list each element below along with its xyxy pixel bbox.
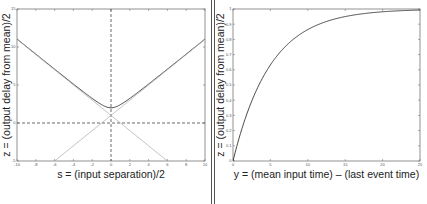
y-axis-title: z = (output delay from mean)/2 (0, 13, 12, 156)
y-tick-label: 0.2 (226, 128, 232, 133)
x-tick-label: 4 (147, 162, 150, 167)
x-tick-label: -6 (53, 162, 57, 167)
y-tick-label: 0.5 (226, 82, 232, 87)
x-tick-label: 2 (129, 162, 132, 167)
panel-divider (211, 0, 212, 204)
left-chart: -10-8-6-4-20246810-5051015s = (input sep… (0, 0, 212, 204)
y-tick-label: 0.7 (226, 52, 232, 57)
right-chart: 051015202500.10.20.30.40.50.60.70.80.91y… (216, 0, 427, 204)
y-tick-label: 0.8 (226, 37, 232, 42)
right-chart-panel: 051015202500.10.20.30.40.50.60.70.80.91y… (216, 0, 427, 204)
y-tick-label: 15 (11, 6, 16, 11)
x-tick-label: 10 (306, 162, 311, 167)
x-axis-title: s = (input separation)/2 (57, 168, 165, 180)
y-tick-label: 0.6 (226, 67, 232, 72)
left-chart-panel: -10-8-6-4-20246810-5051015s = (input sep… (0, 0, 212, 204)
x-tick-label: -4 (72, 162, 76, 167)
x-tick-label: -8 (34, 162, 38, 167)
x-tick-label: 15 (343, 162, 348, 167)
x-tick-label: 5 (269, 162, 272, 167)
x-tick-label: 25 (418, 162, 423, 167)
x-axis-title: y = (mean input time) – (last event time… (234, 168, 419, 180)
y-tick-label: 0.4 (226, 98, 232, 103)
x-tick-label: -2 (90, 162, 94, 167)
y-tick-label: 1 (229, 6, 232, 11)
x-tick-label: 6 (166, 162, 169, 167)
x-tick-label: 0 (110, 162, 113, 167)
x-tick-label: 0 (232, 162, 235, 167)
y-tick-label: 0 (13, 120, 16, 125)
y-tick-label: 0.1 (226, 143, 232, 148)
panel-divider-inner (214, 0, 215, 204)
y-axis-title: z = (output delay from mean)/2 (216, 13, 226, 156)
plot-frame (233, 9, 420, 161)
y-tick-label: 0.3 (226, 113, 232, 118)
x-tick-label: 20 (380, 162, 385, 167)
y-tick-label: 0.9 (226, 22, 232, 27)
x-tick-label: 10 (203, 162, 208, 167)
x-tick-label: 8 (185, 162, 188, 167)
y-tick-label: 5 (13, 82, 16, 87)
